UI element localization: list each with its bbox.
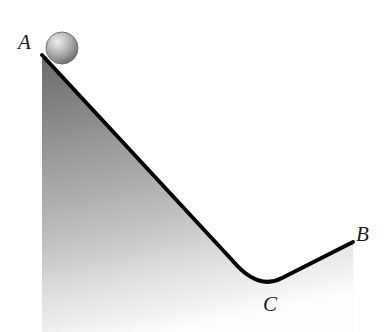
ramp-illustration xyxy=(0,0,392,332)
ramp-fill xyxy=(42,55,355,332)
ramp-diagram: A B C xyxy=(0,0,392,332)
point-label-b: B xyxy=(356,224,369,245)
ramp-body xyxy=(42,55,355,332)
point-label-c: C xyxy=(263,294,277,315)
sphere-icon xyxy=(46,32,78,64)
ball-on-ramp xyxy=(46,32,78,64)
point-label-a: A xyxy=(18,32,31,53)
